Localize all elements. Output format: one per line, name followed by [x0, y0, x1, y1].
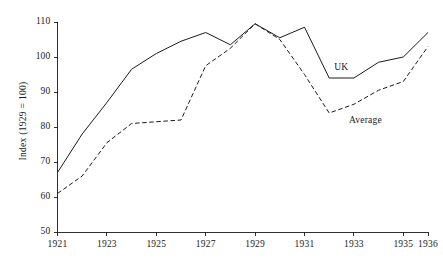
y-axis-tick-label: 50 [41, 226, 51, 236]
chart-series [58, 24, 429, 194]
x-axis-tick-label: 1933 [334, 239, 374, 249]
y-axis-tick-label: 80 [41, 121, 51, 131]
series-label-average: Average [349, 115, 382, 125]
series-line-average [58, 24, 429, 194]
y-axis-tick-label: 90 [41, 86, 51, 96]
y-axis-tick-label: 70 [41, 156, 51, 166]
y-axis-tick-label: 110 [36, 16, 51, 26]
x-axis-tick-label: 1925 [136, 239, 176, 249]
x-axis-tick-label: 1927 [186, 239, 226, 249]
x-axis-tick-label: 1923 [87, 239, 127, 249]
series-label-uk: UK [334, 62, 348, 72]
chart-axes [54, 22, 429, 236]
x-axis-tick-label: 1929 [235, 239, 275, 249]
x-axis-tick-label: 1931 [285, 239, 325, 249]
x-axis-tick-label: 1921 [38, 239, 78, 249]
series-line-uk [58, 24, 429, 173]
x-axis-tick-label: 1936 [408, 239, 443, 249]
y-axis-tick-label: 100 [36, 51, 51, 61]
y-axis-title: Index (1929 = 100) [18, 46, 28, 196]
y-axis-tick-label: 60 [41, 191, 51, 201]
